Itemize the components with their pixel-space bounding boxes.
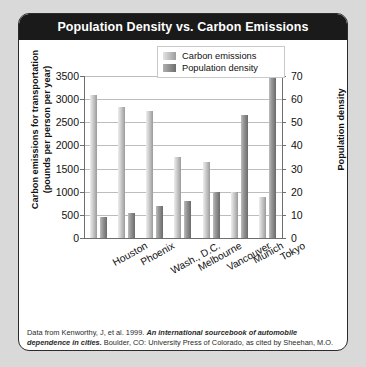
- right-tick-label: 50: [291, 117, 303, 128]
- bar-population-density: [241, 115, 248, 238]
- right-tick: [282, 99, 286, 100]
- bar-population-density: [184, 201, 191, 238]
- right-tick-label: 20: [291, 187, 303, 198]
- left-tick: [80, 145, 84, 146]
- bar-carbon-emissions: [146, 111, 153, 238]
- right-axis-title-line1: Population density: [336, 40, 348, 220]
- plot-area: Carbon emissions Population density 0500…: [84, 76, 283, 239]
- bar-group: [113, 76, 141, 238]
- left-axis-title: Carbon emissions for transportation (pou…: [30, 40, 53, 220]
- legend-swatch-carbon-emissions: [163, 52, 176, 60]
- left-tick-label: 500: [61, 210, 79, 221]
- legend-label-population-density: Population density: [182, 63, 258, 73]
- right-tick-label: 60: [291, 94, 303, 105]
- x-axis-labels: HoustonPhoenixWash., D.C.MelbourneVancou…: [84, 240, 281, 300]
- left-tick-label: 1000: [56, 187, 79, 198]
- bar-group: [141, 76, 169, 238]
- bar-group: [226, 76, 254, 238]
- bar-population-density: [213, 192, 220, 238]
- right-tick: [282, 145, 286, 146]
- bar-group: [169, 76, 197, 238]
- right-tick-label: 70: [291, 71, 303, 82]
- left-tick-label: 1500: [56, 164, 79, 175]
- right-tick-label: 10: [291, 210, 303, 221]
- left-tick-label: 2000: [56, 140, 79, 151]
- citation-part-1: Data from Kenworthy, J, et al. 1999.: [27, 328, 146, 337]
- right-tick: [282, 169, 286, 170]
- chart-body: Carbon emissions for transportation (pou…: [19, 40, 348, 310]
- bar-population-density: [269, 76, 276, 238]
- left-tick-label: 3000: [56, 94, 79, 105]
- left-tick: [80, 192, 84, 193]
- bar-population-density: [100, 217, 107, 238]
- bar-population-density: [156, 206, 163, 238]
- left-axis-title-line2: (pounds per person per year): [41, 40, 53, 220]
- figure-title-bar: Population Density vs. Carbon Emissions: [19, 14, 347, 40]
- right-axis-title: Population density (persons per hectare): [336, 40, 349, 220]
- left-tick-label: 3500: [56, 71, 79, 82]
- bar-carbon-emissions: [203, 162, 210, 238]
- chart-legend: Carbon emissions Population density: [157, 46, 285, 78]
- legend-item-population-density: Population density: [163, 62, 277, 74]
- bar-group: [198, 76, 226, 238]
- source-citation: Data from Kenworthy, J, et al. 1999. An …: [27, 328, 339, 351]
- bar-series-container: [85, 76, 282, 238]
- right-axis-title-line2: (persons per hectare): [347, 40, 348, 220]
- left-tick: [80, 99, 84, 100]
- bar-carbon-emissions: [259, 197, 266, 238]
- left-tick: [80, 238, 84, 239]
- left-tick: [80, 169, 84, 170]
- left-tick-label: 2500: [56, 117, 79, 128]
- bar-population-density: [128, 213, 135, 238]
- bar-carbon-emissions: [231, 192, 238, 238]
- left-axis-title-line1: Carbon emissions for transportation: [30, 40, 42, 220]
- figure-card: Population Density vs. Carbon Emissions …: [18, 13, 348, 351]
- right-tick-label: 40: [291, 140, 303, 151]
- right-tick: [282, 122, 286, 123]
- left-tick: [80, 76, 84, 77]
- legend-item-carbon-emissions: Carbon emissions: [163, 50, 277, 62]
- right-tick: [282, 215, 286, 216]
- legend-label-carbon-emissions: Carbon emissions: [182, 51, 256, 61]
- bar-carbon-emissions: [90, 95, 97, 238]
- bar-carbon-emissions: [174, 157, 181, 238]
- right-tick-label: 30: [291, 164, 303, 175]
- left-tick: [80, 215, 84, 216]
- bar-carbon-emissions: [118, 107, 125, 238]
- citation-italic-2: What will it take to halt sprawl?: [48, 348, 158, 351]
- left-tick-label: 0: [73, 233, 79, 244]
- citation-part-3: Washington DC: Worldwatch Institute.: [157, 348, 283, 351]
- left-tick: [80, 122, 84, 123]
- bar-group: [254, 76, 282, 238]
- bar-group: [85, 76, 113, 238]
- right-tick: [282, 238, 286, 239]
- right-tick: [282, 192, 286, 193]
- legend-swatch-population-density: [163, 64, 176, 72]
- page-title: Population Density vs. Carbon Emissions: [57, 20, 308, 34]
